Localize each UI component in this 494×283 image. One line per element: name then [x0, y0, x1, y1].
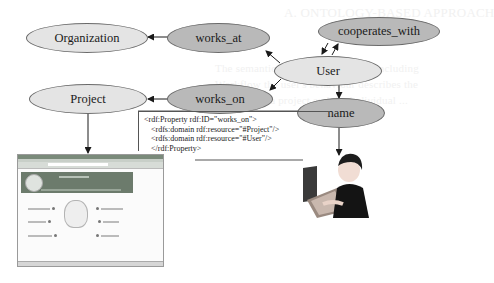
node-label: cooperates_with: [338, 24, 420, 39]
node-project: Project: [29, 84, 147, 114]
bullet-icon: [98, 220, 101, 223]
browser-status-bar: [18, 261, 163, 266]
code-line: <rdfs:domain rdf:resource="#Project"/>: [144, 125, 330, 135]
node-label: User: [316, 64, 340, 79]
edge-user-cooperates: [332, 44, 338, 55]
code-line: <rdf:Property rdf:ID="works_on">: [144, 115, 330, 125]
node-label: Project: [70, 92, 105, 107]
node-works-on: works_on: [167, 84, 273, 114]
node-label: works_on: [195, 92, 244, 107]
portal-link: [101, 235, 119, 237]
node-works-at: works_at: [167, 23, 270, 53]
project-web-screenshot: [17, 154, 164, 267]
portal-link: [28, 221, 46, 223]
browser-address-bar: [48, 163, 108, 166]
brain-image: [64, 200, 88, 228]
portal-link: [103, 221, 119, 223]
node-user: User: [274, 56, 382, 86]
node-label: works_at: [196, 31, 242, 46]
node-label: Organization: [54, 31, 119, 46]
edge-user-works-at: [266, 51, 280, 63]
banner-title: [59, 176, 89, 178]
banner-nav: [41, 189, 121, 191]
edge-user-works-on: [270, 79, 281, 90]
portal-banner: [21, 172, 133, 193]
portal-link: [28, 235, 52, 237]
bullet-icon: [48, 220, 51, 223]
bullet-icon: [52, 207, 55, 210]
portal-link: [28, 208, 50, 210]
node-label: name: [327, 106, 354, 121]
node-organization: Organization: [26, 23, 148, 53]
person-at-computer-icon: [303, 148, 379, 218]
rdf-code-snippet: <rdf:Property rdf:ID="works_on"> <rdfs:d…: [138, 111, 330, 151]
bullet-icon: [54, 234, 57, 237]
portal-link: [101, 208, 123, 210]
code-line: <rdfs:domain rdf:resource="#User"/>: [144, 134, 330, 144]
node-cooperates-with: cooperates_with: [318, 17, 440, 46]
bullet-icon: [96, 207, 99, 210]
browser-toolbar: [18, 162, 163, 169]
edge-cooperates-user: [322, 43, 328, 54]
bullet-icon: [96, 234, 99, 237]
